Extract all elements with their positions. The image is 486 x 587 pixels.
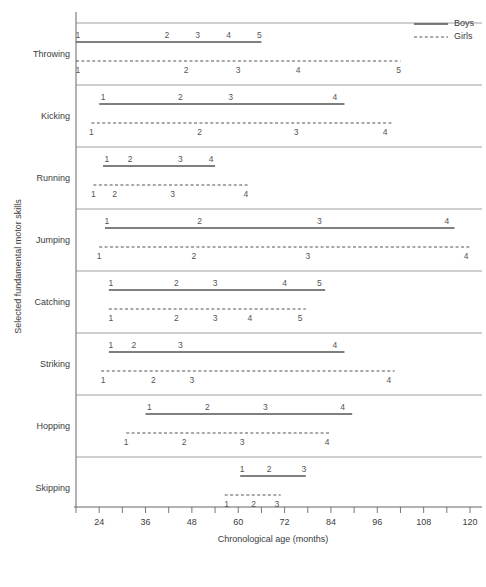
- stage-label-girls: 1: [91, 190, 96, 199]
- stage-label-boys: 5: [257, 31, 262, 40]
- stage-label-boys: 1: [76, 31, 81, 40]
- stage-label-boys: 2: [205, 403, 210, 412]
- stage-label-boys: 3: [178, 341, 183, 350]
- stage-label-girls: 2: [184, 66, 189, 75]
- stage-label-boys: 1: [105, 155, 110, 164]
- stage-label-girls: 5: [396, 66, 401, 75]
- stage-label-boys: 4: [332, 341, 337, 350]
- skill-axis-label: Hopping: [36, 422, 70, 431]
- x-tick-label: 120: [462, 518, 477, 527]
- stage-label-boys: 2: [178, 93, 183, 102]
- stage-label-boys: 4: [282, 279, 287, 288]
- stage-label-girls: 3: [294, 128, 299, 137]
- stage-label-girls: 2: [182, 438, 187, 447]
- skill-axis-label: Catching: [34, 298, 70, 307]
- x-tick-label: 84: [326, 518, 336, 527]
- stage-label-boys: 3: [302, 465, 307, 474]
- x-tick-label: 36: [141, 518, 151, 527]
- stage-label-boys: 2: [267, 465, 272, 474]
- legend-label-boys: Boys: [454, 19, 474, 28]
- chart-canvas: [0, 0, 486, 587]
- stage-label-girls: 4: [387, 376, 392, 385]
- stage-label-girls: 3: [305, 252, 310, 261]
- stage-label-boys: 1: [240, 465, 245, 474]
- stage-label-boys: 3: [228, 93, 233, 102]
- stage-label-boys: 2: [128, 155, 133, 164]
- stage-label-girls: 2: [197, 128, 202, 137]
- skill-axis-label: Skipping: [35, 484, 70, 493]
- x-tick-label: 24: [94, 518, 104, 527]
- legend-label-girls: Girls: [454, 32, 473, 41]
- stage-label-boys: 1: [101, 93, 106, 102]
- stage-label-girls: 2: [151, 376, 156, 385]
- stage-label-boys: 2: [174, 279, 179, 288]
- stage-label-boys: 4: [332, 93, 337, 102]
- stage-label-girls: 1: [76, 66, 81, 75]
- x-tick-label: 72: [280, 518, 290, 527]
- stage-label-boys: 3: [178, 155, 183, 164]
- stage-label-girls: 1: [108, 314, 113, 323]
- stage-label-girls: 1: [224, 500, 229, 509]
- stage-label-girls: 4: [325, 438, 330, 447]
- stage-label-boys: 3: [317, 217, 322, 226]
- stage-label-girls: 5: [298, 314, 303, 323]
- stage-label-girls: 3: [240, 438, 245, 447]
- stage-label-girls: 3: [236, 66, 241, 75]
- x-tick-label: 60: [233, 518, 243, 527]
- skill-axis-label: Striking: [40, 360, 70, 369]
- stage-label-boys: 2: [164, 31, 169, 40]
- stage-label-boys: 1: [108, 279, 113, 288]
- stage-label-girls: 1: [89, 128, 94, 137]
- x-tick-label: 108: [416, 518, 431, 527]
- stage-label-boys: 1: [147, 403, 152, 412]
- stage-label-girls: 1: [97, 252, 102, 261]
- x-axis-title: Chronological age (months): [218, 535, 329, 544]
- skill-axis-label: Throwing: [33, 50, 70, 59]
- y-axis-title: Selected fundamental motor skills: [14, 186, 23, 346]
- x-tick-label: 48: [187, 518, 197, 527]
- stage-label-boys: 3: [213, 279, 218, 288]
- stage-label-girls: 4: [247, 314, 252, 323]
- stage-label-girls: 3: [274, 500, 279, 509]
- stage-label-boys: 1: [108, 341, 113, 350]
- stage-label-boys: 2: [197, 217, 202, 226]
- stage-label-girls: 2: [191, 252, 196, 261]
- stage-label-girls: 1: [124, 438, 129, 447]
- stage-label-girls: 1: [101, 376, 106, 385]
- stage-label-girls: 2: [251, 500, 256, 509]
- skill-axis-label: Jumping: [36, 236, 70, 245]
- skill-axis-label: Kicking: [41, 112, 70, 121]
- x-tick-label: 96: [372, 518, 382, 527]
- skill-axis-label: Running: [36, 174, 70, 183]
- stage-label-boys: 4: [209, 155, 214, 164]
- stage-label-boys: 2: [132, 341, 137, 350]
- stage-label-boys: 3: [195, 31, 200, 40]
- stage-label-boys: 1: [105, 217, 110, 226]
- stage-label-girls: 3: [170, 190, 175, 199]
- stage-label-girls: 3: [190, 376, 195, 385]
- stage-label-girls: 2: [174, 314, 179, 323]
- stage-label-girls: 3: [213, 314, 218, 323]
- stage-label-girls: 4: [383, 128, 388, 137]
- stage-label-girls: 4: [464, 252, 469, 261]
- stage-label-boys: 5: [317, 279, 322, 288]
- stage-label-girls: 4: [244, 190, 249, 199]
- stage-label-girls: 2: [112, 190, 117, 199]
- stage-label-boys: 4: [444, 217, 449, 226]
- stage-label-boys: 4: [340, 403, 345, 412]
- chart-container: 24364860728496108120Throwing1234512345Ki…: [0, 0, 486, 587]
- stage-label-boys: 4: [226, 31, 231, 40]
- stage-label-boys: 3: [263, 403, 268, 412]
- stage-label-girls: 4: [296, 66, 301, 75]
